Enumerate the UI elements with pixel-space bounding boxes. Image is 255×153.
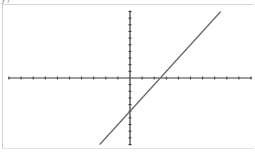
graph-plot [0,0,255,153]
axes [8,11,252,146]
